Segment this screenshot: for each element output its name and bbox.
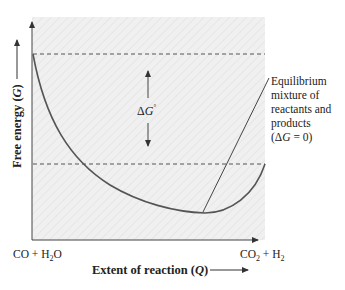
condition-open: (Δ [271, 131, 282, 144]
free-energy-diagram: ΔG° Equilibrium mixture of reactants and… [0, 0, 345, 290]
products-subscript-2: 2 [281, 254, 285, 263]
x-label-prefix: Extent of reaction ( [92, 263, 195, 277]
condition-rest: = 0) [291, 131, 313, 144]
annotation-line-4: products [271, 117, 311, 130]
standard-state-superscript: ° [153, 103, 156, 111]
reactants-label: CO + H2O [13, 248, 62, 263]
y-label-suffix: ) [10, 84, 24, 88]
annotation-line-3: reactants and [271, 103, 332, 115]
reactants-text-a: CO + H [13, 248, 50, 260]
x-label-suffix: ) [204, 263, 208, 277]
products-text-b: + H [260, 248, 281, 260]
annotation-condition: (ΔG = 0) [271, 131, 313, 144]
equilibrium-annotation: Equilibrium mixture of reactants and pro… [271, 75, 332, 144]
y-label-prefix: Free energy ( [10, 97, 24, 168]
x-label-var: Q [195, 263, 204, 277]
annotation-line-1: Equilibrium [271, 75, 327, 88]
y-label-var: G [10, 88, 24, 97]
svg-text:Free energy (G): Free energy (G) [10, 84, 24, 168]
delta-g-var: G [145, 104, 154, 118]
annotation-line-2: mixture of [271, 89, 319, 101]
x-axis-title: Extent of reaction (Q) [92, 263, 208, 277]
products-label: CO2 + H2 [240, 248, 285, 263]
y-axis-title: Free energy (G) [10, 84, 24, 168]
reactants-text-b: O [54, 248, 62, 260]
products-text-a: CO [240, 248, 256, 260]
